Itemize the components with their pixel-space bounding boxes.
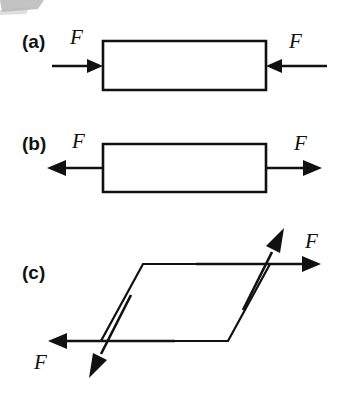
panel-a-label: (a) xyxy=(22,31,45,52)
panel-a-compression: (a) F F xyxy=(22,25,327,90)
loading-types-diagram: (a) F F (b) F xyxy=(0,0,349,406)
panel-b-left-force-label: F xyxy=(71,129,85,153)
panel-a-right-force-label: F xyxy=(288,29,302,53)
panel-b-left-force-arrow xyxy=(47,160,103,176)
panel-c-upper-force-label: F xyxy=(304,229,318,253)
panel-c-shear: (c) F F xyxy=(22,228,321,378)
panel-b-label: (b) xyxy=(22,133,46,154)
panel-a-left-force-arrow xyxy=(52,59,103,73)
panel-a-body-rectangle xyxy=(103,41,266,90)
panel-b-right-force-arrow xyxy=(266,160,322,176)
scan-smudge-artifact xyxy=(0,0,44,15)
panel-b-body-rectangle xyxy=(103,144,266,192)
figure-root: (a) F F (b) F xyxy=(0,0,349,406)
panel-b-right-force-label: F xyxy=(293,131,307,155)
panel-b-tension: (b) F F xyxy=(22,129,322,192)
panel-a-right-force-arrow xyxy=(266,59,327,73)
panel-a-left-force-label: F xyxy=(69,25,83,49)
panel-c-label: (c) xyxy=(22,262,45,283)
panel-c-lower-force-label: F xyxy=(33,350,47,374)
